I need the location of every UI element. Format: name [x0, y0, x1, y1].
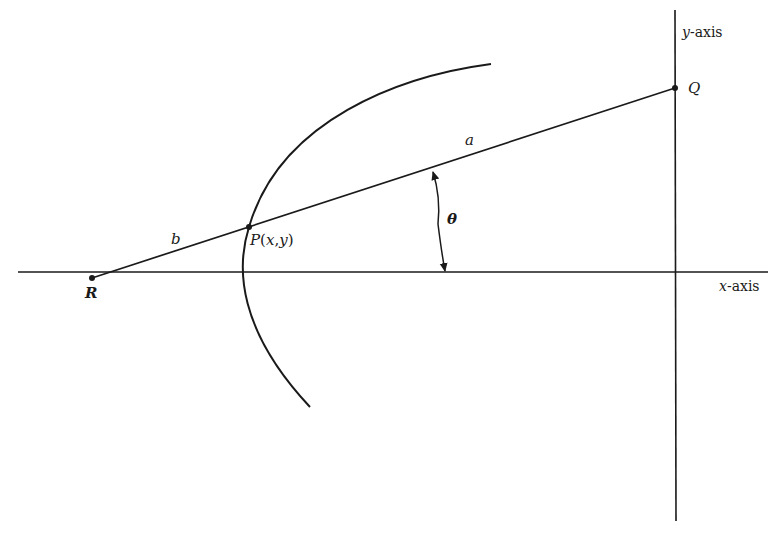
segment-rq — [92, 88, 675, 278]
point-r-dot — [89, 275, 95, 281]
angle-arc — [433, 172, 439, 224]
point-p-label: P(x,y) — [249, 231, 294, 249]
y-axis-label: y-axis — [681, 24, 723, 40]
y-axis-suffix: -axis — [690, 24, 723, 40]
point-q-label: Q — [688, 79, 700, 97]
segment-a-label: a — [465, 131, 474, 149]
angle-arc-lower — [438, 224, 445, 271]
point-r-label: R — [84, 284, 97, 302]
point-q-dot — [672, 85, 678, 91]
x-axis-label: x-axis — [719, 278, 760, 294]
segment-b-label: b — [171, 230, 181, 248]
angle-theta-label: θ — [447, 210, 457, 228]
point-p-dot — [246, 224, 252, 230]
x-axis-var: x — [719, 278, 727, 294]
point-p-close: ) — [288, 231, 294, 249]
diagram-canvas: R Q P(x,y) a b θ x-axis y-axis — [0, 0, 783, 544]
x-axis-suffix: -axis — [727, 278, 760, 294]
